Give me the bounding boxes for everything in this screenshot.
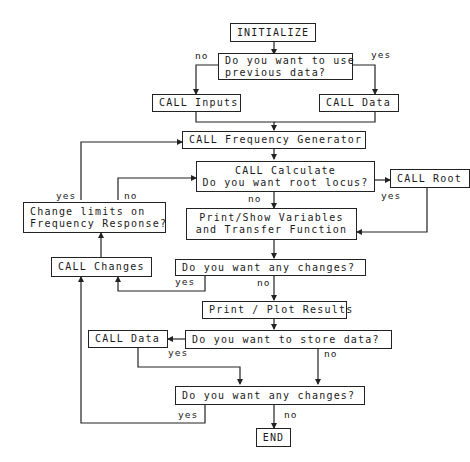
label-store-no: no [324,348,337,359]
use-previous-data-decision: Do you want to use previous data? [218,53,353,80]
call-root-box: CALL Root [390,169,470,188]
label-previous-yes: yes [371,49,391,60]
call-data-top-text: CALL Data [326,97,392,109]
call-root-text: CALL Root [397,173,463,185]
label-changes1-yes: yes [175,276,195,287]
call-inputs-text: CALL Inputs [159,97,234,109]
print-show-variables-box: Print/Show Variables and Transfer Functi… [186,208,357,240]
print-plot-text: Print / Plot Results [209,304,340,316]
label-store-yes: yes [168,347,188,358]
call-frequency-generator-text: CALL Frequency Generator [189,134,359,146]
label-limits-yes: yes [56,190,76,201]
label-root-no: no [248,193,261,204]
calculate-text-line1: CALL Calculate [235,165,336,177]
call-changes-box: CALL Changes [51,257,152,277]
print-show-text-line2: and Transfer Function [196,224,348,236]
any-changes-decision-2: Do you want any changes? [175,386,365,405]
label-previous-no: no [195,50,208,61]
label-limits-no: no [124,190,137,201]
change-limits-decision: Change limits on Frequency Response? [23,202,166,233]
call-data-bottom-box: CALL Data [88,330,168,348]
call-frequency-generator-box: CALL Frequency Generator [182,131,366,149]
store-data-text: Do you want to store data? [192,334,385,346]
change-limits-text-line1: Change limits on [30,206,159,218]
initialize-text: INITIALIZE [237,27,309,39]
store-data-decision: Do you want to store data? [185,330,392,349]
end-text: END [263,432,285,444]
any-changes-1-text: Do you want any changes? [182,262,359,274]
call-calculate-root-locus-decision: CALL Calculate Do you want root locus? [196,161,375,192]
initialize-box: INITIALIZE [230,23,316,42]
call-changes-text: CALL Changes [58,261,145,273]
label-changes2-no: no [284,409,297,420]
print-plot-results-box: Print / Plot Results [202,301,347,319]
end-box: END [256,428,291,447]
decision-text-line1: Do you want to use [225,55,346,67]
call-inputs-box: CALL Inputs [152,94,241,112]
any-changes-2-text: Do you want any changes? [182,390,358,402]
print-show-text-line1: Print/Show Variables [199,212,343,224]
change-limits-text-line2: Frequency Response? [30,218,159,230]
decision-text-line2: previous data? [225,67,346,79]
call-data-top-box: CALL Data [319,94,399,112]
label-changes1-no: no [257,277,270,288]
call-data-bottom-text: CALL Data [95,333,161,345]
label-changes2-yes: yes [178,409,198,420]
label-root-yes: yes [381,190,401,201]
any-changes-decision-1: Do you want any changes? [175,259,366,276]
calculate-text-line2: Do you want root locus? [202,177,368,189]
